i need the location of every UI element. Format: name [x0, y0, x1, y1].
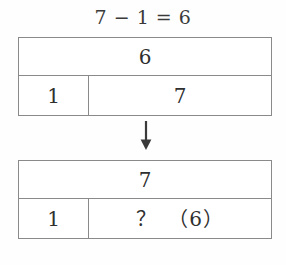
- table-row: 7: [19, 161, 271, 198]
- bar-model-before: 6 1 7: [18, 37, 272, 116]
- table-row: 1 ？ （6）: [19, 198, 271, 238]
- table-row: 1 7: [19, 75, 271, 115]
- equation-title: 7 − 1 = 6: [0, 6, 286, 28]
- arrow-down-icon: [137, 121, 155, 151]
- part-cell-right-answer: ？ （6）: [89, 199, 271, 238]
- diagram-root: 7 − 1 = 6 6 1 7 7 1 ？ （6）: [0, 0, 286, 265]
- whole-cell: 7: [19, 161, 271, 198]
- whole-cell: 6: [19, 38, 271, 75]
- bar-model-after: 7 1 ？ （6）: [18, 160, 272, 239]
- part-cell-left: 1: [19, 199, 89, 238]
- part-cell-left: 1: [19, 76, 89, 115]
- table-row: 6: [19, 38, 271, 75]
- part-cell-right: 7: [89, 76, 271, 115]
